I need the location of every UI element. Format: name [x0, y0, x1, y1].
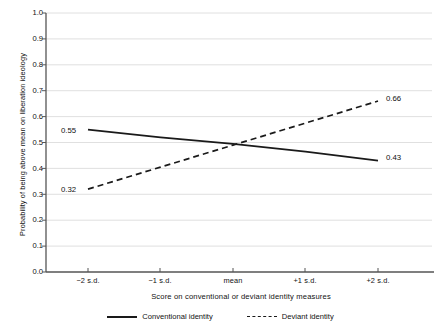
series-line-deviant-identity: [88, 101, 378, 189]
x-tick-label: −1 s.d.: [130, 276, 190, 285]
x-tick-label: +2 s.d.: [348, 276, 408, 285]
x-tick-label: −2 s.d.: [58, 276, 118, 285]
legend-label: Deviant identity: [282, 312, 334, 321]
data-label-deviant-start: 0.32: [61, 185, 76, 194]
x-axis-title: Score on conventional or deviant identit…: [46, 292, 436, 301]
data-label-deviant-end: 0.66: [386, 94, 401, 103]
legend-entry-conventional-identity: Conventional identity: [107, 312, 213, 321]
chart-legend: Conventional identity Deviant identity: [0, 312, 441, 321]
data-label-conventional-start: 0.55: [61, 126, 76, 135]
gridlines: [46, 13, 432, 246]
data-label-conventional-end: 0.43: [386, 153, 401, 162]
legend-entry-deviant-identity: Deviant identity: [247, 312, 334, 321]
legend-dashed-line-icon: [247, 313, 277, 320]
line-chart-figure: Probability of being above mean on liber…: [0, 0, 441, 333]
x-tick-label: mean: [203, 276, 263, 285]
x-tick-label: +1 s.d.: [275, 276, 335, 285]
legend-solid-line-icon: [107, 313, 137, 320]
legend-label: Conventional identity: [142, 312, 213, 321]
